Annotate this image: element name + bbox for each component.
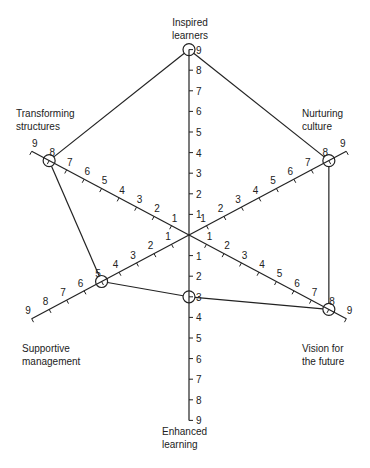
tick-mark: [206, 226, 208, 230]
tick-label: 1: [196, 251, 202, 262]
tick-label: 1: [165, 231, 171, 242]
label-line: Nurturing: [302, 107, 343, 120]
tick-label: 9: [25, 305, 31, 316]
tick-mark: [275, 281, 277, 285]
tick-label: 7: [312, 287, 318, 298]
tick-mark: [67, 300, 69, 304]
radar-plot: 1234567891234567891234567891234567891234…: [0, 0, 370, 468]
tick-label: 8: [196, 65, 202, 76]
tick-mark: [32, 319, 34, 323]
tick-label: 5: [196, 333, 202, 344]
tick-label: 2: [224, 240, 230, 251]
tick-mark: [276, 189, 278, 193]
tick-mark: [241, 207, 243, 211]
tick-label: 5: [277, 268, 283, 279]
tick-label: 4: [119, 185, 125, 196]
tick-label: 8: [196, 395, 202, 406]
tick-label: 3: [242, 250, 248, 261]
tick-mark: [205, 244, 207, 248]
data-edge: [54, 53, 184, 157]
tick-label: 6: [196, 106, 202, 117]
tick-label: 1: [172, 213, 178, 224]
axis-label-transforming-structures: Transforming structures: [16, 107, 75, 133]
label-line: learners: [167, 29, 213, 42]
tick-mark: [294, 179, 296, 183]
tick-label: 7: [67, 157, 73, 168]
tick-label: 6: [288, 166, 294, 177]
label-line: learning: [162, 438, 207, 451]
tick-label: 2: [196, 271, 202, 282]
tick-label: 4: [253, 185, 259, 196]
tick-mark: [152, 216, 154, 220]
tick-label: 1: [207, 231, 213, 242]
tick-label: 6: [294, 278, 300, 289]
tick-mark: [65, 170, 67, 174]
tick-label: 8: [329, 296, 335, 307]
tick-mark: [327, 309, 329, 313]
tick-label: 5: [270, 175, 276, 186]
data-edge: [107, 283, 183, 296]
radar-chart: 1234567891234567891234567891234567891234…: [0, 0, 370, 468]
tick-label: 3: [130, 250, 136, 261]
tick-label: 6: [84, 166, 90, 177]
tick-label: 3: [235, 194, 241, 205]
tick-label: 4: [196, 148, 202, 159]
tick-label: 5: [196, 127, 202, 138]
tick-mark: [154, 254, 156, 258]
tick-label: 3: [137, 194, 143, 205]
axis-label-supportive-management: Supportive management: [22, 342, 80, 368]
label-line: structures: [16, 120, 75, 133]
tick-label: 4: [259, 259, 265, 270]
tick-mark: [329, 161, 331, 165]
axis-label-inspired-learners: Inspired learners: [167, 16, 213, 42]
tick-label: 7: [60, 287, 66, 298]
tick-mark: [259, 198, 261, 202]
tick-label: 4: [196, 312, 202, 323]
data-edge: [52, 166, 100, 276]
tick-label: 7: [196, 86, 202, 97]
axis-line: [32, 151, 189, 235]
label-line: Inspired: [167, 16, 213, 29]
data-edge: [195, 297, 323, 308]
tick-mark: [257, 272, 259, 276]
tick-mark: [84, 291, 86, 295]
tick-mark: [346, 151, 348, 155]
label-line: Transforming: [16, 107, 75, 120]
tick-mark: [344, 319, 346, 323]
tick-mark: [49, 309, 51, 313]
tick-label: 9: [347, 305, 353, 316]
axis-label-nurturing-culture: Nurturing culture: [302, 107, 343, 133]
label-line: the future: [302, 355, 344, 368]
tick-mark: [102, 281, 104, 285]
tick-label: 6: [78, 278, 84, 289]
tick-label: 4: [113, 259, 119, 270]
tick-mark: [224, 216, 226, 220]
tick-label: 9: [340, 138, 346, 149]
tick-mark: [240, 263, 242, 267]
tick-mark: [137, 263, 139, 267]
tick-label: 6: [196, 354, 202, 365]
tick-mark: [311, 170, 313, 174]
label-line: culture: [302, 120, 343, 133]
tick-mark: [82, 179, 84, 183]
tick-label: 2: [154, 203, 160, 214]
tick-label: 2: [218, 203, 224, 214]
tick-label: 5: [102, 175, 108, 186]
tick-label: 7: [196, 374, 202, 385]
tick-mark: [309, 300, 311, 304]
tick-label: 2: [148, 240, 154, 251]
tick-mark: [170, 226, 172, 230]
tick-label: 3: [196, 168, 202, 179]
label-line: management: [22, 355, 80, 368]
axis-label-vision-for-the-future: Vision for the future: [302, 342, 344, 368]
label-line: Enhanced: [162, 425, 207, 438]
axis-line: [32, 235, 189, 319]
data-edge: [194, 53, 324, 157]
tick-mark: [292, 291, 294, 295]
tick-mark: [172, 244, 174, 248]
tick-mark: [30, 151, 32, 155]
tick-mark: [100, 189, 102, 193]
tick-label: 1: [200, 213, 206, 224]
label-line: Vision for: [302, 342, 344, 355]
axis-label-enhanced-learning: Enhanced learning: [162, 425, 207, 451]
